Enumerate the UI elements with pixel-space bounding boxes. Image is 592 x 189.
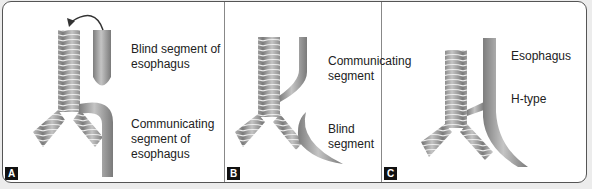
figure-frame: Blind segment of esophagus Communicating…	[2, 1, 587, 183]
panel-tag-c: C	[384, 167, 397, 180]
panel-b: Communicating segment Blind segment B	[225, 2, 381, 182]
panel-tag-a: A	[5, 167, 18, 180]
panel-a: Blind segment of esophagus Communicating…	[3, 2, 224, 182]
label-blind-segment: Blind segment	[328, 122, 381, 152]
label-communicating-segment: Communicating segment of esophagus	[131, 117, 214, 162]
panel-tag-b: B	[227, 167, 240, 180]
label-esophagus: Esophagus	[511, 49, 571, 64]
label-blind-segment: Blind segment of esophagus	[131, 42, 220, 72]
label-h-type: H-type	[511, 92, 546, 107]
panel-c: Esophagus H-type C	[382, 2, 587, 182]
